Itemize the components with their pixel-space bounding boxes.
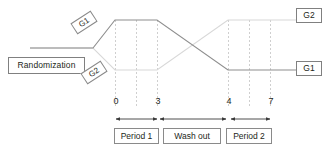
group-label-g2-end: G2 [296,8,322,23]
gridlines [116,20,271,108]
phase-box-period-1: Period 1 [114,128,159,144]
tick-label-4: 4 [222,97,236,106]
tick-label-3: 3 [151,97,165,106]
phase-box-wash-out: Wash out [163,128,221,144]
group-label-g1-end: G1 [296,61,322,76]
randomization-box: Randomization [8,57,85,74]
tick-label-7: 7 [264,97,278,106]
phase-box-period-2: Period 2 [226,128,272,144]
crossover-diagram-canvas: Randomization G1 G2 G2 G1 0 3 4 7 Period… [0,0,332,147]
tick-label-0: 0 [109,97,123,106]
